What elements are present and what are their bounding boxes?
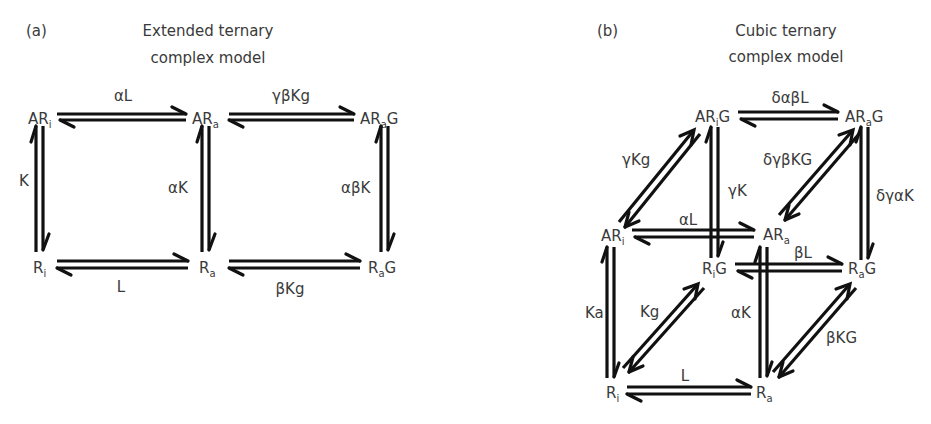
edge-label-Ra-ARa: αK xyxy=(731,304,752,322)
arrow-Ri-Ra xyxy=(57,254,188,275)
arrow-RaG-ARaG xyxy=(856,127,873,260)
edge-label-RiG-ARiG: γK xyxy=(728,182,748,200)
arrow-Ri-ARi xyxy=(602,247,619,378)
panel-b-title-line1: Cubic ternary xyxy=(735,22,837,40)
edge-label-ARi-ARa: αL xyxy=(114,87,133,105)
arrow-ARiG-ARaG xyxy=(738,105,838,126)
panel-a: (a) Extended ternary complex model ARi A… xyxy=(19,22,398,298)
node-RaG: RaG xyxy=(368,259,396,279)
edge-label-ARa-ARaG: δγβKG xyxy=(763,151,812,169)
edge-label-Ri-Ra: L xyxy=(681,367,690,385)
node-Ri: Ri xyxy=(33,259,46,279)
panel-a-title-line2: complex model xyxy=(150,49,265,67)
edge-label-ARiG-ARaG: δαβL xyxy=(772,89,810,107)
edge-label-ARa-ARaG: γβKg xyxy=(272,87,310,105)
node-RiG: RiG xyxy=(702,260,727,280)
panel-a-title-line1: Extended ternary xyxy=(143,22,274,40)
node-ARiG: ARiG xyxy=(695,108,730,128)
node-Ra: Ra xyxy=(756,384,773,404)
panel-a-tag: (a) xyxy=(26,22,47,40)
arrow-Ra-RaG xyxy=(229,254,360,275)
arrow-ARi-ARa xyxy=(57,107,186,127)
panel-b: (b) Cubic ternary complex model ARiG ARa… xyxy=(585,22,915,404)
panel-b-tag: (b) xyxy=(597,22,618,40)
node-ARa: ARa xyxy=(192,110,219,130)
edge-label-RiG-RaG: βL xyxy=(794,244,813,262)
node-ARa: ARa xyxy=(763,226,790,246)
arrow-Ra-ARa xyxy=(197,126,215,252)
edge-label-Ri-ARi: K xyxy=(19,172,30,190)
panel-b-title-line2: complex model xyxy=(728,48,843,66)
node-ARaG: ARaG xyxy=(845,108,883,128)
edge-label-Ri-RiG: Kg xyxy=(640,303,659,321)
arrow-RiG-RaG xyxy=(735,257,842,278)
edge-label-Ra-RaG: βKG xyxy=(826,329,857,347)
diagram-canvas: (a) Extended ternary complex model ARi A… xyxy=(0,0,931,424)
arrow-ARa-ARaG xyxy=(779,130,859,220)
edge-label-ARi-ARa: αL xyxy=(679,211,698,229)
arrow-RaG-ARaG xyxy=(376,126,394,252)
edge-label-Ri-Ra: L xyxy=(117,278,126,296)
node-RaG: RaG xyxy=(848,260,876,280)
arrow-ARa-ARaG xyxy=(229,107,354,127)
node-ARi: ARi xyxy=(28,110,51,130)
edge-label-Ra-RaG: βKg xyxy=(276,280,305,298)
node-Ri: Ri xyxy=(606,384,619,404)
arrow-Ri-ARi xyxy=(31,126,49,252)
edge-label-RaG-ARaG: αβK xyxy=(341,179,371,197)
edge-label-Ra-ARa: αK xyxy=(168,179,189,197)
edge-label-RaG-ARaG: δγαK xyxy=(876,187,915,205)
arrow-Ri-RiG xyxy=(623,284,704,372)
edge-label-ARi-ARiG: γKg xyxy=(622,151,650,169)
arrow-Ra-ARa xyxy=(755,247,772,378)
node-ARi: ARi xyxy=(601,227,624,247)
node-Ra: Ra xyxy=(199,259,216,279)
edge-label-Ri-ARi: Ka xyxy=(585,304,604,322)
